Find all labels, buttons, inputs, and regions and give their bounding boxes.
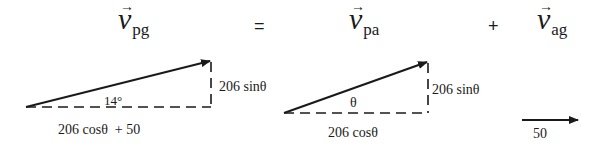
pg-vertical-label: 206 sinθ xyxy=(219,80,267,94)
pg-angle-label: 14° xyxy=(104,94,122,107)
vector-arrow-icon: → xyxy=(539,0,553,14)
term-v-pa: →vpa xyxy=(349,4,379,38)
pg-horizontal-label: 206 cosθ + 50 xyxy=(58,123,140,137)
plus-sign: + xyxy=(488,16,499,37)
pa-angle-label: θ xyxy=(350,96,357,110)
subscript-ag: ag xyxy=(551,20,567,39)
vector-arrow-icon: → xyxy=(351,0,365,14)
equals-sign: = xyxy=(254,16,265,37)
ag-magnitude-label: 50 xyxy=(533,127,547,141)
vector-arrow-icon: → xyxy=(120,0,134,14)
term-v-pg: →vpg xyxy=(118,4,149,38)
pa-horizontal-label: 206 cosθ xyxy=(328,126,378,140)
subscript-pg: pg xyxy=(132,20,149,39)
subscript-pa: pa xyxy=(363,20,379,39)
pa-vertical-label: 206 sinθ xyxy=(432,83,480,97)
term-v-ag: →vag xyxy=(537,4,567,38)
